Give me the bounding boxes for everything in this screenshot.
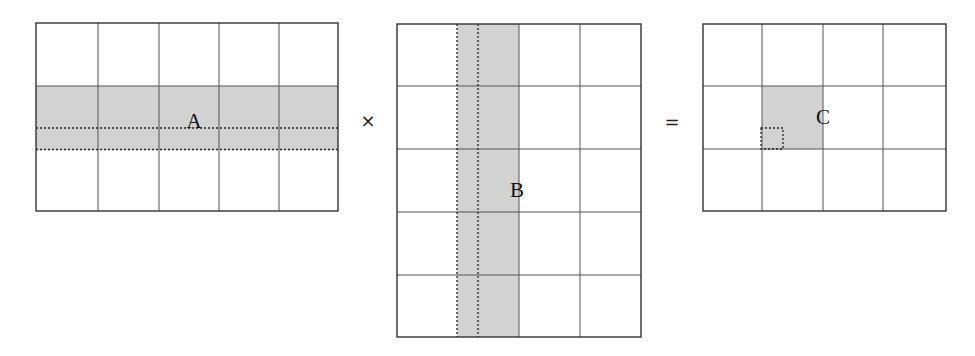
- matrix-b: B: [397, 24, 641, 337]
- matrix-c-label: C: [816, 105, 830, 129]
- matrix-c-shaded-cell: [762, 86, 823, 149]
- matrix-multiplication-diagram: A × B = C: [0, 0, 975, 356]
- matrix-a: A: [36, 23, 338, 211]
- matrix-b-label: B: [510, 178, 524, 202]
- matrix-a-label: A: [186, 109, 202, 133]
- equals-operator: =: [664, 111, 679, 132]
- matrix-c: C: [703, 24, 946, 211]
- times-operator: ×: [360, 110, 375, 131]
